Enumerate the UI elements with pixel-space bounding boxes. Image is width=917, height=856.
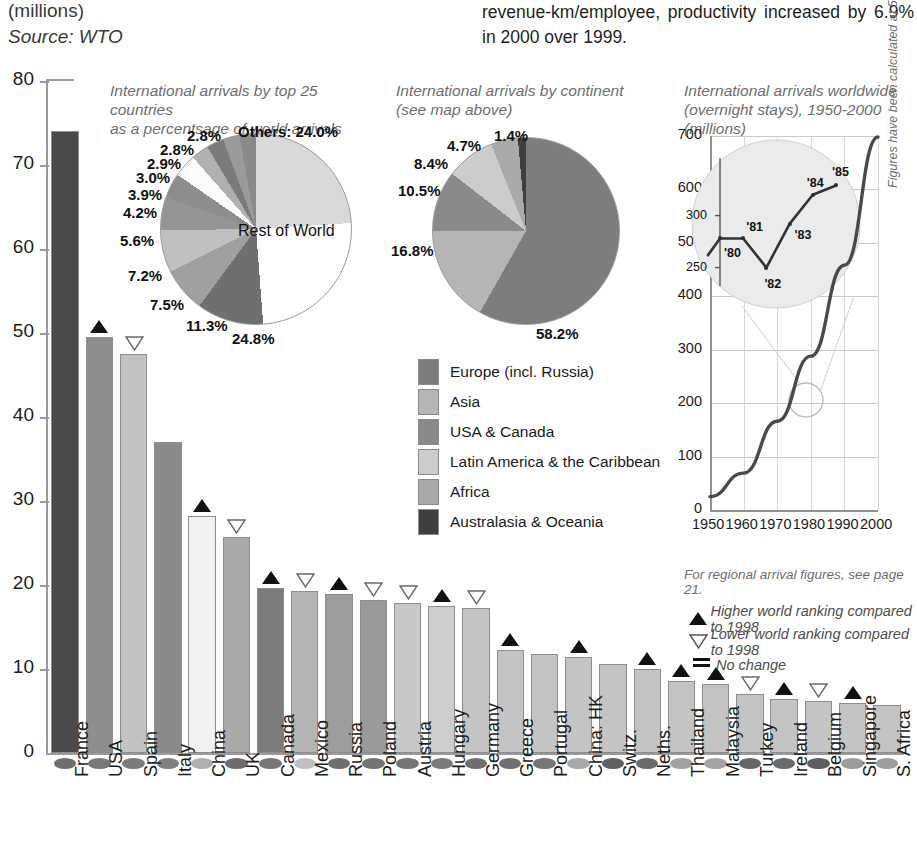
category-label: Thailand — [688, 708, 709, 777]
inset-point-label: '80 — [724, 246, 741, 260]
triangle-down-icon — [125, 336, 144, 351]
inset-point-label: '81 — [746, 220, 763, 234]
equals-icon — [686, 660, 716, 670]
pie1-slice-label: 7.2% — [128, 267, 162, 284]
pie2-slice-label: 1.4% — [494, 127, 528, 144]
y-axis-tick — [40, 333, 49, 335]
triangle-down-icon — [227, 519, 246, 534]
bar — [154, 442, 181, 753]
key-label-nochange: No change — [716, 657, 786, 673]
y-axis-label: 10 — [0, 656, 34, 678]
category-label: Ireland — [791, 722, 812, 777]
inset-point-label: '84 — [807, 176, 824, 190]
legend-item: Australasia & Oceania — [418, 507, 660, 537]
y-axis-label: 30 — [0, 488, 34, 510]
bar — [86, 337, 113, 753]
source-label: Source: WTO — [8, 24, 308, 50]
triangle-down-icon — [467, 590, 486, 605]
category-label: Mexico — [312, 720, 333, 777]
unit-label: (millions) — [8, 0, 308, 24]
category-label: Belgium — [825, 712, 846, 777]
line-chart-side-note: Figures have been calculated at 5-year i… — [886, 0, 900, 188]
category-label: Malaysia — [723, 706, 744, 777]
category-label: Switz. — [620, 729, 641, 777]
category-label: Italy — [175, 744, 196, 777]
legend-label: Latin America & the Caribbean — [450, 453, 660, 471]
category-label: China — [209, 730, 230, 777]
inset-point-label: '85 — [832, 165, 849, 179]
y-axis-label: 50 — [0, 320, 34, 342]
y-axis-tick — [40, 417, 49, 419]
category-label: Portugal — [551, 710, 572, 777]
legend-label: Africa — [450, 483, 490, 501]
pie1-slice-label: 24.8% — [232, 330, 275, 347]
pie1-slice-label: 2.8% — [187, 127, 221, 144]
category-label: France — [72, 721, 93, 777]
pie2-slice-label: 16.8% — [391, 242, 434, 259]
category-label: S. Africa — [894, 710, 915, 777]
y-axis-tick — [40, 501, 49, 503]
inset-data-point — [788, 222, 792, 226]
inset-y-label: 250 — [686, 260, 707, 274]
key-label-lower: Lower world ranking compared to 1998 — [711, 626, 917, 658]
legend-item: Africa — [418, 477, 660, 507]
legend-item: Latin America & the Caribbean — [418, 447, 660, 477]
legend-item: Asia — [418, 387, 660, 417]
legend-swatch — [418, 479, 439, 505]
bar — [223, 537, 250, 753]
continent-legend: Europe (incl. Russia)AsiaUSA & CanadaLat… — [418, 357, 660, 537]
header-body-text: revenue-km/employee, productivity increa… — [482, 0, 914, 50]
triangle-down-icon — [741, 676, 760, 691]
triangle-up-icon — [686, 612, 710, 625]
key-row-lower: Lower world ranking compared to 1998 — [686, 630, 917, 653]
legend-swatch — [418, 419, 439, 445]
line-chart: 0100200300400500600700 19501960197019801… — [668, 128, 882, 540]
pie1-rest-of-world-label: Rest of World — [238, 222, 335, 240]
category-label: Hungary — [449, 709, 470, 777]
triangle-down-icon — [364, 582, 383, 597]
triangle-down-icon — [809, 683, 828, 698]
y-axis-tick — [40, 165, 49, 167]
pie1-slice-label: 4.2% — [123, 204, 157, 221]
pie2-slice-label: 10.5% — [398, 182, 441, 199]
category-label: UK — [243, 752, 264, 777]
bar — [188, 516, 215, 753]
legend-label: Asia — [450, 393, 480, 411]
y-axis-tick — [40, 81, 49, 83]
category-label: Turkey — [757, 723, 778, 777]
category-label: Russia — [346, 722, 367, 777]
ranking-key: Higher world ranking compared to 1998 Lo… — [686, 607, 917, 676]
category-label: Greece — [517, 718, 538, 777]
legend-swatch — [418, 449, 439, 475]
legend-label: Australasia & Oceania — [450, 513, 603, 531]
pie1-slice-label: 3.9% — [128, 186, 162, 203]
inset-point-label: '83 — [795, 228, 812, 242]
category-label: Neths. — [654, 725, 675, 777]
triangle-down-icon — [686, 634, 711, 649]
pie1-slice-label: Others: 24.0% — [238, 123, 338, 140]
line-chart-note: For regional arrival figures, see page 2… — [684, 567, 917, 597]
y-axis-cap — [46, 79, 74, 81]
inset-line-svg — [668, 128, 882, 540]
category-label: Germany — [483, 703, 504, 777]
y-axis-label: 0 — [0, 740, 34, 762]
y-axis-tick — [40, 585, 49, 587]
inset-y-label: 300 — [686, 208, 707, 222]
y-axis-label: 70 — [0, 152, 34, 174]
category-label: Spain — [141, 731, 162, 777]
legend-swatch — [418, 509, 439, 535]
category-label: Austria — [415, 721, 436, 777]
pie2-slice-label: 58.2% — [536, 325, 579, 342]
legend-item: Europe (incl. Russia) — [418, 357, 660, 387]
triangle-down-icon — [296, 573, 315, 588]
y-axis-label: 60 — [0, 236, 34, 258]
y-axis-label: 40 — [0, 404, 34, 426]
legend-label: Europe (incl. Russia) — [450, 363, 594, 381]
category-label: China: HK — [586, 695, 607, 777]
triangle-down-icon — [399, 585, 418, 600]
y-axis-label: 20 — [0, 572, 34, 594]
y-axis-tick — [40, 669, 49, 671]
y-axis-label: 80 — [0, 68, 34, 90]
legend-swatch — [418, 389, 439, 415]
pie1-slice-label: 7.5% — [150, 296, 184, 313]
